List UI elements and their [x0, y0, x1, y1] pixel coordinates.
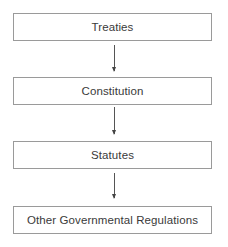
node-label: Treaties — [92, 21, 134, 33]
node-statutes: Statutes — [13, 141, 212, 169]
node-treaties: Treaties — [13, 13, 212, 41]
arrow-down-icon — [114, 107, 115, 134]
arrow-down-icon — [114, 173, 115, 198]
arrow-down-icon — [114, 45, 115, 71]
node-constitution: Constitution — [13, 77, 212, 105]
node-label: Constitution — [82, 85, 144, 97]
node-label: Statutes — [91, 149, 134, 161]
node-other-governmental-regulations: Other Governmental Regulations — [13, 206, 212, 234]
node-label: Other Governmental Regulations — [27, 214, 198, 226]
